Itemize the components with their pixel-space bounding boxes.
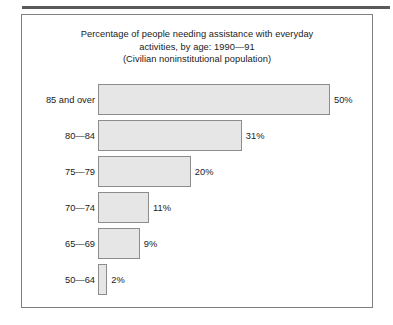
chart-frame: Percentage of people needing assistance … (21, 14, 373, 308)
bar-row: 50—64 2% (22, 264, 372, 295)
bar (98, 120, 242, 151)
value-label: 31% (246, 131, 265, 141)
chart-title-line-2: activities, by age: 1990—91 (22, 41, 372, 54)
bar (98, 264, 107, 295)
category-label: 80—84 (22, 131, 98, 141)
value-label: 9% (144, 239, 157, 249)
bar-row: 80—84 31% (22, 120, 372, 151)
bar (98, 228, 140, 259)
bar-row: 65—69 9% (22, 228, 372, 259)
top-horizontal-rule (22, 6, 390, 9)
bar-row: 70—74 11% (22, 192, 372, 223)
category-label: 65—69 (22, 239, 98, 249)
bar-wrapper: 20% (98, 156, 372, 187)
bar-row: 85 and over 50% (22, 84, 372, 115)
bar-wrapper: 11% (98, 192, 372, 223)
chart-title-line-1: Percentage of people needing assistance … (22, 28, 372, 41)
value-label: 2% (111, 275, 124, 285)
bar (98, 192, 149, 223)
bar-wrapper: 9% (98, 228, 372, 259)
category-label: 50—64 (22, 275, 98, 285)
bar-wrapper: 2% (98, 264, 372, 295)
value-label: 11% (153, 203, 171, 213)
value-label: 20% (195, 167, 214, 177)
category-label: 75—79 (22, 167, 98, 177)
bar-wrapper: 31% (98, 120, 372, 151)
category-label: 85 and over (22, 95, 98, 105)
bar (98, 156, 191, 187)
plot-area: 85 and over 50% 80—84 31% 75—79 20% 70—7… (22, 84, 372, 295)
chart-title: Percentage of people needing assistance … (22, 28, 372, 66)
bar (98, 84, 330, 115)
chart-title-line-3: (Civilian noninstitutional population) (22, 53, 372, 66)
bar-wrapper: 50% (98, 84, 372, 115)
category-label: 70—74 (22, 203, 98, 213)
bar-row: 75—79 20% (22, 156, 372, 187)
value-label: 50% (334, 95, 353, 105)
